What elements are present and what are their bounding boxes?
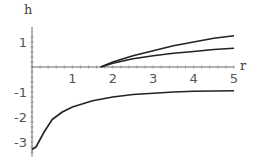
x-tick-label: 5 — [230, 71, 238, 86]
y-tick-label: -1 — [14, 85, 27, 100]
x-tick-label: 1 — [68, 71, 76, 86]
x-tick-label: 4 — [189, 71, 197, 86]
plot: 123451-1-2-3hr — [0, 0, 259, 165]
x-axis-label: r — [240, 58, 247, 73]
x-tick-label: 3 — [149, 71, 157, 86]
y-tick-label: -2 — [14, 110, 27, 125]
y-tick-label: -3 — [14, 135, 27, 150]
curve-line — [101, 48, 234, 67]
curve-line — [32, 91, 234, 150]
y-axis-label: h — [24, 2, 33, 17]
y-tick-label: 1 — [19, 35, 27, 50]
x-tick-label: 2 — [109, 71, 117, 86]
